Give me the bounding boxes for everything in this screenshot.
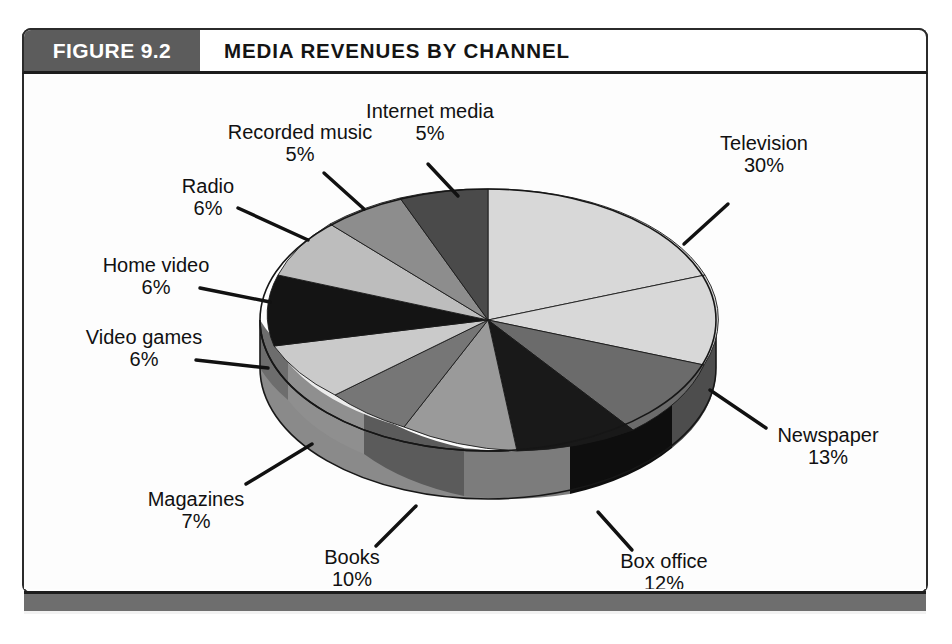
- figure-footer-shadow: [24, 611, 926, 614]
- callout-box-office-name: Box office: [620, 550, 707, 572]
- callout-newspaper: Newspaper 13%: [777, 424, 878, 469]
- leader-video-games: [196, 360, 268, 368]
- callout-video-games: Video games 6%: [86, 326, 202, 371]
- leader-newspaper: [710, 390, 766, 428]
- leader-radio: [238, 208, 308, 240]
- callout-books-name: Books: [324, 546, 380, 568]
- figure-title-label: MEDIA REVENUES BY CHANNEL: [224, 39, 570, 63]
- figure-number-block: FIGURE 9.2: [24, 30, 200, 71]
- callout-internet-media-value: 5%: [366, 122, 494, 144]
- callout-radio-name: Radio: [182, 175, 234, 197]
- leader-magazines: [246, 444, 312, 484]
- callout-box-office: Box office 12%: [620, 550, 707, 589]
- figure-footer-bar: [24, 591, 926, 611]
- callout-television-value: 30%: [720, 154, 808, 176]
- callout-television-name: Television: [720, 132, 808, 154]
- callout-recorded-music: Recorded music 5%: [228, 121, 373, 166]
- callout-video-games-value: 6%: [86, 348, 202, 370]
- chart-canvas: Internet media 5% Recorded music 5% Radi…: [24, 76, 926, 589]
- side-books: [464, 446, 570, 499]
- callout-home-video-value: 6%: [103, 276, 210, 298]
- callout-television: Television 30%: [720, 132, 808, 177]
- figure-container: FIGURE 9.2 MEDIA REVENUES BY CHANNEL: [0, 0, 952, 644]
- callout-internet-media: Internet media 5%: [366, 100, 494, 145]
- callout-video-games-name: Video games: [86, 326, 202, 348]
- callout-recorded-music-name: Recorded music: [228, 121, 373, 143]
- callout-box-office-value: 12%: [620, 572, 707, 589]
- callout-magazines: Magazines 7%: [148, 488, 245, 533]
- leader-television: [684, 204, 728, 244]
- callout-magazines-name: Magazines: [148, 488, 245, 510]
- callout-internet-media-name: Internet media: [366, 100, 494, 122]
- leader-box-office: [598, 512, 632, 550]
- figure-title-block: MEDIA REVENUES BY CHANNEL: [224, 30, 570, 71]
- callout-home-video-name: Home video: [103, 254, 210, 276]
- figure-number-label: FIGURE 9.2: [53, 39, 171, 63]
- callout-magazines-value: 7%: [148, 510, 245, 532]
- leader-home-video: [200, 288, 270, 302]
- callout-radio: Radio 6%: [182, 175, 234, 220]
- leader-recorded-music: [324, 173, 364, 209]
- callout-recorded-music-value: 5%: [228, 143, 373, 165]
- callout-books-value: 10%: [324, 568, 380, 589]
- leader-books: [376, 506, 416, 546]
- callout-radio-value: 6%: [182, 197, 234, 219]
- callout-home-video: Home video 6%: [103, 254, 210, 299]
- callout-books: Books 10%: [324, 546, 380, 589]
- callout-newspaper-value: 13%: [777, 446, 878, 468]
- callout-newspaper-name: Newspaper: [777, 424, 878, 446]
- figure-header: FIGURE 9.2 MEDIA REVENUES BY CHANNEL: [22, 28, 928, 74]
